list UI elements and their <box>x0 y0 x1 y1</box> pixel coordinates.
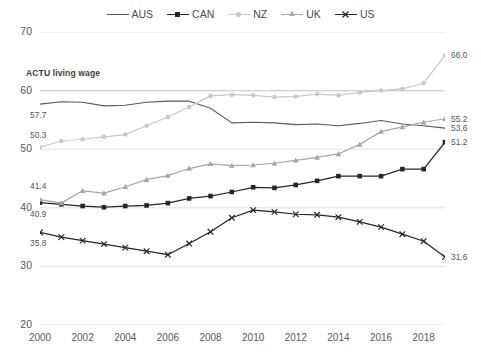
marker-us-2019 <box>442 254 445 260</box>
series-line-can <box>40 142 445 207</box>
legend-item-nz[interactable]: NZ <box>228 8 267 20</box>
marker-nz-2016 <box>379 88 384 93</box>
marker-nz-2002 <box>80 137 85 142</box>
marker-nz-2013 <box>315 92 320 97</box>
marker-nz-2010 <box>251 93 256 98</box>
start-label-can: 40.9 <box>30 209 46 219</box>
marker-nz-2014 <box>336 93 341 98</box>
legend-marker-nz-icon <box>228 9 250 19</box>
marker-uk-2000 <box>40 197 43 202</box>
marker-uk-2015 <box>357 142 363 147</box>
start-label-uk: 41.4 <box>30 181 46 191</box>
legend-label-uk: UK <box>306 8 321 20</box>
legend-label-nz: NZ <box>253 8 267 20</box>
marker-can-2014 <box>336 174 341 179</box>
y-tick-70: 70 <box>6 25 32 37</box>
legend-marker-us-icon <box>335 9 357 19</box>
plot-svg <box>40 32 445 325</box>
marker-nz-2005 <box>144 123 149 128</box>
legend-marker-uk-icon <box>281 9 303 19</box>
start-label-nz: 50.3 <box>30 130 46 140</box>
legend-label-can: CAN <box>192 8 214 20</box>
marker-can-2013 <box>315 179 320 184</box>
marker-nz-2011 <box>272 95 277 100</box>
plot-area <box>40 32 445 325</box>
legend-item-aus[interactable]: AUS <box>107 8 154 20</box>
marker-can-2017 <box>400 167 405 172</box>
marker-nz-2001 <box>59 139 64 144</box>
x-tick-2016: 2016 <box>361 332 401 343</box>
y-tick-60: 60 <box>6 84 32 96</box>
marker-can-2016 <box>379 174 384 179</box>
x-tick-2000: 2000 <box>20 332 60 343</box>
marker-can-2019 <box>443 140 445 145</box>
end-label-us: 31.6 <box>451 252 467 262</box>
marker-can-2002 <box>80 204 85 209</box>
marker-can-2006 <box>166 201 171 206</box>
x-tick-2006: 2006 <box>148 332 188 343</box>
series-line-us <box>40 210 445 257</box>
x-tick-2012: 2012 <box>276 332 316 343</box>
y-tick-20: 20 <box>6 318 32 330</box>
x-tick-2008: 2008 <box>191 332 231 343</box>
marker-nz-2004 <box>123 132 128 137</box>
series-line-aus <box>40 101 445 128</box>
marker-nz-2003 <box>102 135 107 140</box>
line-chart: AUSCANNZUKUS 706050403020 20002002200420… <box>0 0 481 360</box>
marker-nz-2015 <box>357 90 362 95</box>
marker-can-2008 <box>208 194 213 199</box>
legend-item-can[interactable]: CAN <box>167 8 214 20</box>
legend-item-us[interactable]: US <box>335 8 375 20</box>
start-label-us: 35.8 <box>30 238 46 248</box>
legend-item-uk[interactable]: UK <box>281 8 321 20</box>
marker-nz-2012 <box>293 94 298 99</box>
marker-us-2007 <box>186 241 192 247</box>
x-tick-2018: 2018 <box>404 332 444 343</box>
legend-label-us: US <box>360 8 375 20</box>
y-tick-50: 50 <box>6 142 32 154</box>
marker-us-2008 <box>208 229 214 235</box>
end-label-aus: 53.6 <box>451 123 467 133</box>
end-label-nz: 66.0 <box>451 50 467 60</box>
y-tick-40: 40 <box>6 201 32 213</box>
marker-can-2007 <box>187 196 192 201</box>
x-tick-2010: 2010 <box>233 332 273 343</box>
marker-us-2018 <box>421 238 427 244</box>
marker-can-2015 <box>357 174 362 179</box>
x-tick-2004: 2004 <box>105 332 145 343</box>
legend-marker-can-icon <box>167 9 189 19</box>
marker-can-2018 <box>421 167 426 172</box>
marker-nz-2007 <box>187 105 192 110</box>
x-tick-2002: 2002 <box>63 332 103 343</box>
marker-us-2009 <box>229 215 235 221</box>
series-line-nz <box>40 55 445 147</box>
marker-nz-2009 <box>230 92 235 97</box>
series-line-uk <box>40 119 445 203</box>
marker-can-2012 <box>293 183 298 188</box>
marker-can-2010 <box>251 185 256 190</box>
marker-can-2011 <box>272 186 277 191</box>
legend-label-aus: AUS <box>132 8 154 20</box>
end-label-can: 51.2 <box>451 137 467 147</box>
marker-nz-2017 <box>400 87 405 92</box>
marker-can-2004 <box>123 204 128 209</box>
y-tick-30: 30 <box>6 259 32 271</box>
marker-can-2005 <box>144 203 149 208</box>
legend-marker-aus-icon <box>107 9 129 19</box>
marker-can-2009 <box>230 190 235 195</box>
start-label-aus: 57.7 <box>30 110 46 120</box>
marker-nz-2008 <box>208 94 213 99</box>
x-tick-2014: 2014 <box>318 332 358 343</box>
marker-us-2017 <box>400 231 406 237</box>
marker-can-2003 <box>102 205 107 210</box>
marker-nz-2006 <box>166 115 171 120</box>
marker-nz-2018 <box>421 81 426 86</box>
chart-legend: AUSCANNZUKUS <box>0 4 481 24</box>
